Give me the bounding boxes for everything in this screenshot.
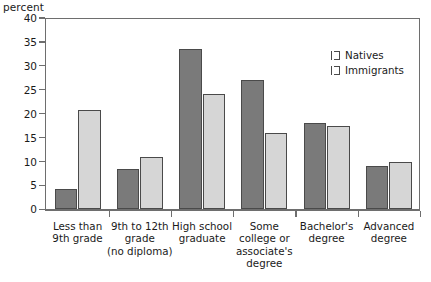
- bar-immigrants-4: [327, 126, 350, 210]
- y-tick-label: 40: [1, 12, 37, 24]
- bar-immigrants-5: [389, 162, 412, 209]
- y-tick-mark: [39, 17, 45, 18]
- bar-natives-0: [55, 189, 78, 209]
- bar-natives-1: [117, 169, 140, 210]
- bar-natives-3: [241, 80, 264, 209]
- y-tick-label: 20: [1, 108, 37, 120]
- x-tick-mark: [171, 211, 172, 217]
- y-tick-label: 15: [1, 132, 37, 144]
- y-tick-label: 5: [1, 179, 37, 191]
- y-tick-mark: [39, 89, 45, 90]
- bar-immigrants-0: [78, 110, 101, 210]
- bar-immigrants-1: [140, 157, 163, 210]
- bar-natives-2: [179, 49, 202, 209]
- x-tick-mark: [420, 211, 421, 217]
- y-tick-label: 35: [1, 36, 37, 48]
- legend-item-immigrants: Immigrants: [331, 64, 404, 78]
- y-tick-mark: [39, 161, 45, 162]
- x-tick-mark: [109, 211, 110, 217]
- x-tick-mark: [233, 211, 234, 217]
- x-tick-mark: [295, 211, 296, 217]
- x-tick-mark: [358, 211, 359, 217]
- bar-immigrants-2: [203, 94, 226, 210]
- plot-area: [46, 18, 420, 209]
- bar-chart: percent 0510152025303540 Less than 9th g…: [0, 0, 431, 282]
- legend-label-natives: Natives: [345, 49, 384, 63]
- legend-swatch-natives: [331, 51, 340, 60]
- y-tick-mark: [39, 41, 45, 42]
- category-label: Advanced degree: [352, 220, 426, 245]
- bar-immigrants-3: [265, 133, 288, 210]
- legend-label-immigrants: Immigrants: [345, 64, 404, 78]
- y-tick-mark: [39, 137, 45, 138]
- y-tick-mark: [39, 113, 45, 114]
- y-tick-label: 25: [1, 84, 37, 96]
- bar-natives-4: [304, 123, 327, 209]
- chart-legend: Natives Immigrants: [331, 49, 404, 79]
- bar-natives-5: [366, 166, 389, 209]
- legend-item-natives: Natives: [331, 49, 404, 63]
- legend-swatch-immigrants: [331, 66, 340, 75]
- y-tick-label: 10: [1, 156, 37, 168]
- y-tick-label: 30: [1, 60, 37, 72]
- y-tick-label: 0: [1, 203, 37, 215]
- y-tick-mark: [39, 185, 45, 186]
- y-tick-mark: [39, 65, 45, 66]
